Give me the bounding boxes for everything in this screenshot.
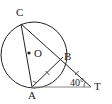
label-o: O [34, 47, 42, 59]
label-t: T [94, 80, 101, 92]
label-a: A [28, 89, 36, 101]
label-b: B [64, 50, 71, 62]
center-dot [27, 51, 30, 54]
angle-t-label: 40° [70, 77, 84, 88]
geometry-diagram: C O B A T 40° [0, 0, 112, 104]
angle-t-mark [84, 82, 86, 87]
segment-ab [32, 57, 63, 87]
segment-ca [21, 24, 32, 87]
label-c: C [16, 6, 23, 18]
angle-a-mark [33, 81, 37, 83]
